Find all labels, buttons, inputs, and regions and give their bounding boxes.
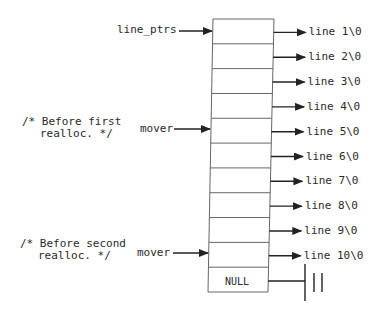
null-label: NULL xyxy=(225,276,249,288)
line-string-label: line 4\0 xyxy=(307,101,360,113)
comment-first-line2: realloc. */ xyxy=(40,128,113,140)
mover-label-first: mover xyxy=(140,123,173,135)
comment-second-line2: realloc. */ xyxy=(38,250,111,262)
line-string-label: line 3\0 xyxy=(308,76,361,88)
line-string-label: line 8\0 xyxy=(305,200,358,212)
line-string-label: line 9\0 xyxy=(304,225,357,237)
line-string-label: line 5\0 xyxy=(307,126,360,138)
pointer-array xyxy=(208,19,274,292)
line-string-label: line 1\0 xyxy=(309,26,362,38)
line-ptrs-label: line_ptrs xyxy=(117,24,177,36)
line-string-label: line 2\0 xyxy=(308,51,361,63)
line-string-label: line 10\0 xyxy=(304,250,364,262)
line-string-label: line 7\0 xyxy=(305,175,358,187)
line-string-label: line 6\0 xyxy=(306,151,359,163)
ground-icon xyxy=(268,264,322,301)
mover-label-second: mover xyxy=(137,247,170,259)
